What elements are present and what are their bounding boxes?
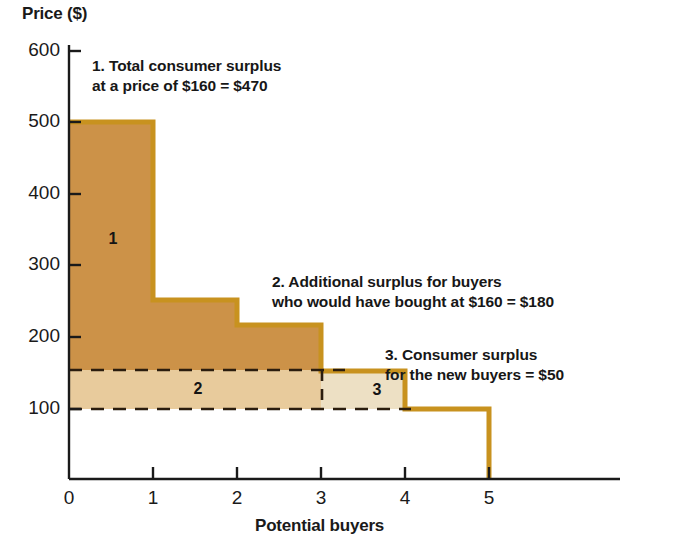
y-tick-label-600: 600 <box>4 39 60 61</box>
consumer-surplus-figure: Price ($) Potential buyers 600 500 400 3… <box>0 0 678 554</box>
x-tick-label-0: 0 <box>54 487 84 509</box>
y-tick-label-400: 400 <box>4 182 60 204</box>
x-axis-title: Potential buyers <box>255 516 384 536</box>
annotation-additional-surplus: 2. Additional surplus for buyers who wou… <box>272 272 554 313</box>
annotation-3-line-1: 3. Consumer surplus <box>385 345 564 365</box>
y-tick-label-500: 500 <box>4 110 60 132</box>
annotation-new-buyers-surplus: 3. Consumer surplus for the new buyers =… <box>385 345 564 386</box>
annotation-3-line-2: for the new buyers = $50 <box>385 365 564 385</box>
region-label-2: 2 <box>186 380 210 398</box>
annotation-total-consumer-surplus: 1. Total consumer surplus at a price of … <box>92 56 281 97</box>
y-axis-title: Price ($) <box>22 4 87 24</box>
x-tick-label-4: 4 <box>390 487 420 509</box>
x-tick-label-5: 5 <box>474 487 504 509</box>
annotation-1-line-2: at a price of $160 = $470 <box>92 76 281 96</box>
x-tick-label-2: 2 <box>222 487 252 509</box>
y-tick-label-100: 100 <box>4 397 60 419</box>
annotation-2-line-1: 2. Additional surplus for buyers <box>272 272 554 292</box>
x-axis-ticks <box>153 467 489 479</box>
x-tick-label-1: 1 <box>138 487 168 509</box>
region-label-3: 3 <box>365 381 389 399</box>
annotation-1-line-1: 1. Total consumer surplus <box>92 56 281 76</box>
x-tick-label-3: 3 <box>306 487 336 509</box>
y-tick-label-200: 200 <box>4 325 60 347</box>
annotation-2-line-2: who would have bought at $160 = $180 <box>272 292 554 312</box>
y-tick-label-300: 300 <box>4 253 60 275</box>
region-label-1: 1 <box>101 230 125 248</box>
